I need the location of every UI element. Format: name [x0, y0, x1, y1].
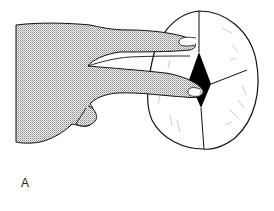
fontanelle-palpation-illustration — [0, 0, 274, 211]
index-fingernail — [179, 37, 196, 46]
panel-label: A — [21, 176, 29, 190]
middle-fingernail — [188, 88, 200, 97]
